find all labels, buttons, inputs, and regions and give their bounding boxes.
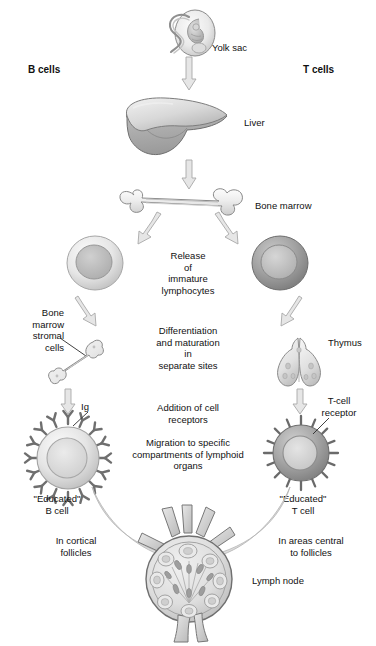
lymph-node-illustration	[132, 503, 248, 643]
label-yolk-sac: Yolk sac	[212, 42, 247, 54]
thymus-illustration	[272, 336, 328, 392]
label-in-areas-central-to-follicles: In areas central to follicles	[252, 535, 370, 558]
column-header-b-cells: B cells	[28, 64, 60, 76]
label-liver: Liver	[244, 117, 265, 129]
arrow-bonemarrow-to-immature-b	[123, 212, 163, 252]
label-ig-receptor: Ig	[81, 401, 89, 413]
arrow-bonemarrow-to-immature-t	[213, 212, 253, 252]
label-lymph-node: Lymph node	[252, 575, 304, 587]
arrow-yolksac-to-liver	[181, 57, 197, 91]
label-t-cell-receptor: T-cell receptor	[308, 395, 370, 418]
t-receptor-leader-line	[312, 418, 330, 436]
ig-leader-line	[72, 412, 90, 428]
label-bone-marrow: Bone marrow	[255, 200, 312, 212]
process-text-differentiation: Differentiation and maturation in separa…	[140, 325, 236, 371]
process-text-receptors: Addition of cell receptors	[138, 402, 238, 425]
label-in-cortical-follicles: In cortical follicles	[28, 535, 124, 558]
process-text-migration: Migration to specific compartments of ly…	[120, 437, 256, 472]
process-text-release: Release of immature lymphocytes	[148, 250, 228, 296]
immature-t-lymphocyte	[249, 232, 311, 294]
liver-illustration	[117, 96, 230, 161]
diagram-canvas: B cells T cells	[0, 0, 376, 646]
column-header-t-cells: T cells	[303, 64, 334, 76]
label-educated-b-cell: "Educated" B cell	[20, 493, 94, 516]
immature-b-lymphocyte	[64, 232, 126, 294]
label-thymus: Thymus	[328, 337, 362, 349]
stromal-bone-illustration	[48, 338, 106, 388]
arrow-immature-b-to-stroma	[73, 296, 107, 334]
educated-t-cell	[258, 410, 344, 496]
arrow-immature-t-to-thymus	[270, 296, 304, 334]
